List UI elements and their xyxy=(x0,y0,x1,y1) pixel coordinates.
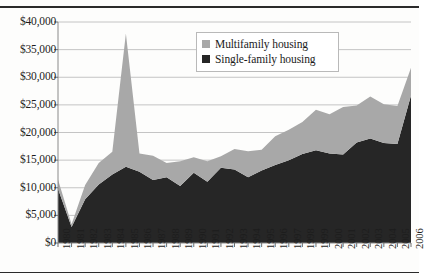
x-axis-tick-label: 1988 xyxy=(171,228,181,249)
stacked-area-chart: $0$5,000$10,000$15,000$20,000$25,000$30,… xyxy=(0,10,419,272)
x-axis-tick-label: 1983 xyxy=(103,228,113,249)
bottom-divider-rule xyxy=(0,272,419,273)
top-divider-rule xyxy=(0,6,419,8)
legend-label-multifamily: Multifamily housing xyxy=(215,38,308,50)
x-axis-tick-label: 1992 xyxy=(225,228,235,249)
x-axis-tick-label: 1984 xyxy=(116,228,126,249)
legend-swatch-multifamily-icon xyxy=(202,40,210,48)
x-axis-tick-label: 2002 xyxy=(361,228,371,249)
x-axis-tick-label: 1997 xyxy=(293,228,303,249)
x-axis-tick-label: 1995 xyxy=(266,228,276,249)
x-axis-tick-label: 1998 xyxy=(306,228,316,249)
x-axis-tick-label: 2003 xyxy=(374,228,384,249)
legend-swatch-single-family-icon xyxy=(202,55,210,63)
x-axis-tick-label: 1986 xyxy=(143,228,153,249)
legend-item-multifamily: Multifamily housing xyxy=(202,37,333,51)
x-axis-tick-label: 1990 xyxy=(198,228,208,249)
x-axis-tick-label: 1982 xyxy=(89,228,99,249)
x-axis-tick-label: 1996 xyxy=(279,228,289,249)
x-axis-tick-label: 1987 xyxy=(157,228,167,249)
x-axis-tick-label: 2004 xyxy=(388,228,398,249)
x-axis-tick-label: 1993 xyxy=(239,228,249,249)
x-axis-tick-label: 1999 xyxy=(320,228,330,249)
x-axis-tick-label: 1985 xyxy=(130,228,140,249)
x-axis-tick-label: 1981 xyxy=(76,228,86,249)
x-axis-tick-label: 1989 xyxy=(184,228,194,249)
chart-legend: Multifamily housing Single-family housin… xyxy=(196,32,339,72)
x-axis-tick-label: 2006 xyxy=(415,228,425,249)
x-axis-tick-label: 2000 xyxy=(334,228,344,249)
x-axis-tick-label: 1994 xyxy=(252,228,262,249)
x-axis-tick-label: 2005 xyxy=(401,228,411,249)
x-axis-tick-label: 1980 xyxy=(62,228,72,249)
x-axis-tick-label: 1991 xyxy=(211,228,221,249)
x-axis-tick-label: 2001 xyxy=(347,228,357,249)
legend-label-single-family: Single-family housing xyxy=(215,53,315,65)
legend-item-single-family: Single-family housing xyxy=(202,52,333,66)
